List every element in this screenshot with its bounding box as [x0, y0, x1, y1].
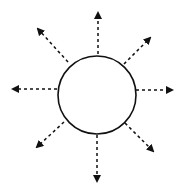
arrow-up-left-icon	[38, 29, 68, 62]
central-circle	[58, 56, 136, 134]
arrow-down-left-icon	[37, 122, 64, 147]
arrow-up-right-icon	[124, 38, 150, 64]
arrow-down-right-icon	[125, 123, 153, 151]
radiating-circle-diagram	[0, 0, 182, 194]
